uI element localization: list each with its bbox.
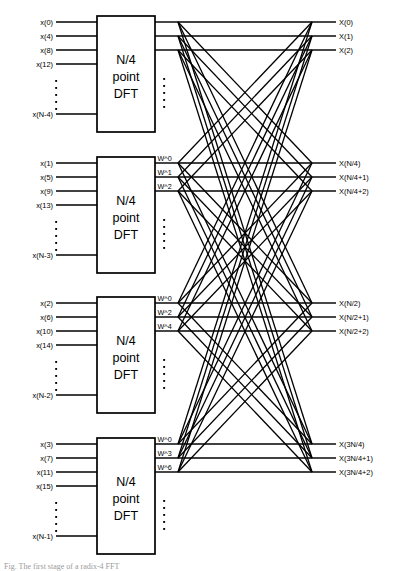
input-ellipsis-dot <box>55 94 57 96</box>
output-ellipsis-dot <box>163 366 165 368</box>
output-label-X(N/2): X(N/2) <box>339 299 360 308</box>
output-ellipsis-dot <box>163 380 165 382</box>
input-label-x(12): x(12) <box>36 60 53 69</box>
input-ellipsis-dot <box>55 389 57 391</box>
input-label-x(9): x(9) <box>40 187 53 196</box>
output-ellipsis-dot <box>163 528 165 530</box>
twiddle-label-W-0: W^0 <box>158 435 172 444</box>
twiddle-label-W-1: W^1 <box>158 168 172 177</box>
input-ellipsis-dot <box>55 235 57 237</box>
input-ellipsis-dot <box>55 221 57 223</box>
input-label-x(14): x(14) <box>36 341 53 350</box>
input-label-x(0): x(0) <box>40 18 53 27</box>
input-label-x(4): x(4) <box>40 32 53 41</box>
input-ellipsis-dot <box>55 361 57 363</box>
output-label-X(1): X(1) <box>339 32 353 41</box>
dft-block-1-label-line3: DFT <box>114 87 139 101</box>
output-ellipsis-dot <box>163 226 165 228</box>
input-label-x(N-3): x(N-3) <box>32 251 53 260</box>
output-ellipsis-dot <box>163 247 165 249</box>
input-ellipsis-dot <box>55 108 57 110</box>
input-label-x(1): x(1) <box>40 159 53 168</box>
output-label-X(N/4): X(N/4) <box>339 159 360 168</box>
output-ellipsis-dot <box>163 106 165 108</box>
input-label-x(N-4): x(N-4) <box>32 110 53 119</box>
output-label-X(N/4+2): X(N/4+2) <box>339 187 369 196</box>
dft-block-3-label-line2: point <box>112 351 140 365</box>
input-label-x(5): x(5) <box>40 173 53 182</box>
output-ellipsis-dot <box>163 85 165 87</box>
output-ellipsis-dot <box>163 507 165 509</box>
output-label-X(N/2+1): X(N/2+1) <box>339 313 369 322</box>
input-label-x(7): x(7) <box>40 454 53 463</box>
output-ellipsis-dot <box>163 359 165 361</box>
output-ellipsis-dot <box>163 233 165 235</box>
output-ellipsis-dot <box>163 219 165 221</box>
twiddle-label-W-6: W^6 <box>158 463 172 472</box>
input-label-x(13): x(13) <box>36 201 53 210</box>
dft-block-1-label-line1: N/4 <box>116 53 136 67</box>
output-label-X(N/2+2): X(N/2+2) <box>339 327 369 336</box>
input-ellipsis-dot <box>55 80 57 82</box>
input-ellipsis-dot <box>55 382 57 384</box>
twiddle-label-W-4: W^4 <box>158 322 172 331</box>
input-label-x(3): x(3) <box>40 440 53 449</box>
input-ellipsis-dot <box>55 502 57 504</box>
input-label-x(10): x(10) <box>36 327 53 336</box>
output-ellipsis-dot <box>163 78 165 80</box>
output-label-X(0): X(0) <box>339 18 353 27</box>
input-ellipsis-dot <box>55 516 57 518</box>
output-label-X(2): X(2) <box>339 46 353 55</box>
twiddle-label-W-3: W^3 <box>158 449 172 458</box>
dft-block-4-label-line2: point <box>112 492 140 506</box>
output-ellipsis-dot <box>163 514 165 516</box>
input-ellipsis-dot <box>55 530 57 532</box>
input-ellipsis-dot <box>55 368 57 370</box>
figure-caption: Fig. The first stage of a radix-4 FFT <box>4 562 119 571</box>
dft-block-2-label-line1: N/4 <box>116 194 136 208</box>
input-label-x(N-2): x(N-2) <box>32 391 53 400</box>
output-ellipsis-dot <box>163 99 165 101</box>
input-ellipsis-dot <box>55 101 57 103</box>
twiddle-label-W-2: W^2 <box>158 182 172 191</box>
dft-block-4-label-line3: DFT <box>114 509 139 523</box>
output-ellipsis-dot <box>163 92 165 94</box>
output-ellipsis-dot <box>163 521 165 523</box>
input-ellipsis-dot <box>55 375 57 377</box>
output-label-X(N/4+1): X(N/4+1) <box>339 173 369 182</box>
twiddle-label-W-0: W^0 <box>158 154 172 163</box>
dft-block-1-label-line2: point <box>112 70 140 84</box>
input-label-x(8): x(8) <box>40 46 53 55</box>
output-ellipsis-dot <box>163 387 165 389</box>
input-label-x(N-1): x(N-1) <box>32 532 53 541</box>
dft-block-3-label-line3: DFT <box>114 368 139 382</box>
input-ellipsis-dot <box>55 242 57 244</box>
input-ellipsis-dot <box>55 228 57 230</box>
output-label-X(3N/4+2): X(3N/4+2) <box>339 468 373 477</box>
input-ellipsis-dot <box>55 249 57 251</box>
twiddle-label-W-2: W^2 <box>158 308 172 317</box>
input-label-x(11): x(11) <box>37 468 53 477</box>
output-ellipsis-dot <box>163 373 165 375</box>
twiddle-label-W-0: W^0 <box>158 294 172 303</box>
input-ellipsis-dot <box>55 509 57 511</box>
input-label-x(6): x(6) <box>40 313 53 322</box>
output-ellipsis-dot <box>163 240 165 242</box>
dft-block-2-label-line2: point <box>112 211 140 225</box>
dft-block-2-label-line3: DFT <box>114 228 139 242</box>
input-ellipsis-dot <box>55 87 57 89</box>
input-label-x(2): x(2) <box>40 299 53 308</box>
input-label-x(15): x(15) <box>36 482 53 491</box>
output-ellipsis-dot <box>163 500 165 502</box>
output-label-X(3N/4+1): X(3N/4+1) <box>339 454 373 463</box>
dft-block-4-label-line1: N/4 <box>116 475 136 489</box>
output-label-X(3N/4): X(3N/4) <box>339 440 364 449</box>
input-ellipsis-dot <box>55 523 57 525</box>
dft-block-3-label-line1: N/4 <box>116 334 136 348</box>
